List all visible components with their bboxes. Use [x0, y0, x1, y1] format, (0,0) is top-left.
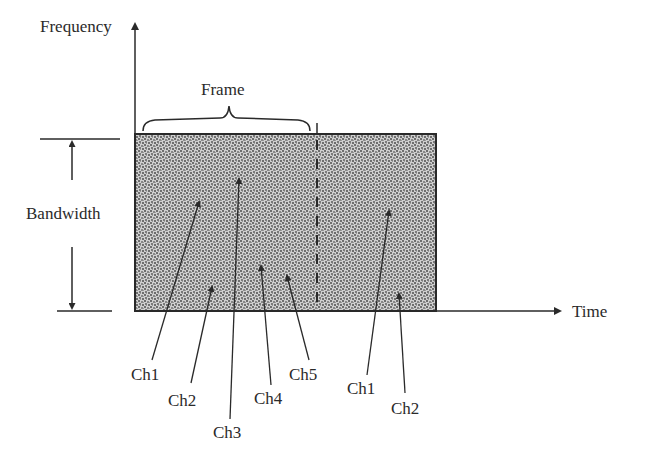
- frequency-axis-label: Frequency: [40, 17, 112, 36]
- channel-label-ch5: Ch5: [289, 365, 317, 384]
- frame-label: Frame: [201, 80, 244, 99]
- frame-brace: [143, 106, 310, 131]
- channel-label-ch4: Ch4: [254, 389, 283, 408]
- bandwidth-label: Bandwidth: [26, 204, 101, 223]
- time-axis-label: Time: [572, 302, 607, 321]
- channel-label-ch2: Ch2: [168, 391, 196, 410]
- channel-label-ch1: Ch1: [131, 365, 159, 384]
- channel-label-ch2-frame2: Ch2: [391, 399, 419, 418]
- tdma-frame-diagram: Frequency Time Frame Bandwidth Ch1 Ch2 C…: [0, 0, 645, 464]
- channel-label-ch3: Ch3: [213, 423, 241, 442]
- bandwidth-time-block: [135, 134, 436, 311]
- channel-label-ch1-frame2: Ch1: [347, 379, 375, 398]
